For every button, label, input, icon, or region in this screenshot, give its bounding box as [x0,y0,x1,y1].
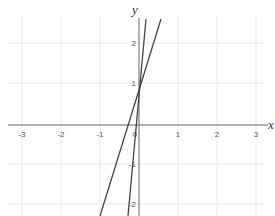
grid [8,15,265,216]
x-tick: 3 [254,130,259,139]
y-axis-label: y [130,2,138,17]
y-tick-labels: 2 1 -1 -2 [129,39,137,209]
x-tick: 1 [176,130,181,139]
x-tick: -3 [18,130,26,139]
x-tick: -2 [57,130,65,139]
y-tick: -2 [129,200,137,209]
y-tick: 2 [132,39,137,48]
x-tick: 2 [215,130,220,139]
x-axis-label: x [267,117,274,132]
x-tick: -1 [96,130,104,139]
y-tick: 1 [132,79,137,88]
graph-canvas: x y -3 -2 -1 0 1 2 3 2 1 -1 -2 [0,0,275,216]
